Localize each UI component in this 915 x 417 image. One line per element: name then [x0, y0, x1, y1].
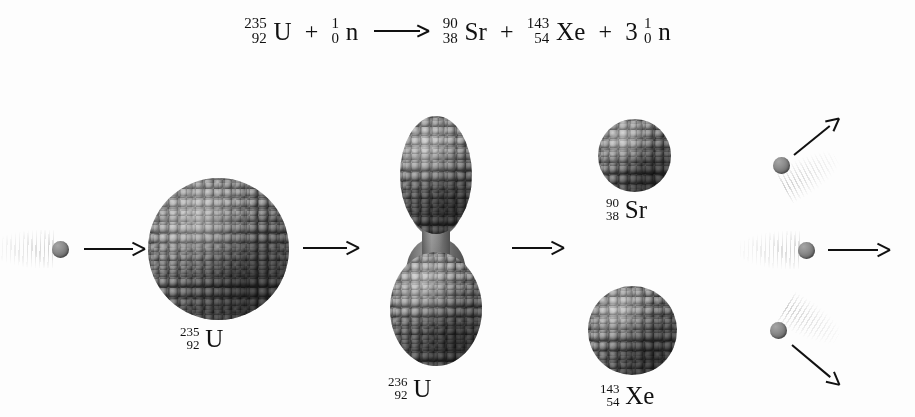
- incoming-neutron-group: [0, 230, 150, 290]
- mass-number: 90: [606, 196, 619, 209]
- atomic-number: 92: [180, 338, 200, 351]
- mass-number: 235: [180, 325, 200, 338]
- label-xenon-143: 143 54 Xe: [600, 382, 654, 409]
- nucleus-xenon-143: [588, 286, 677, 375]
- arrow-head: [345, 241, 358, 255]
- element-symbol: Sr: [465, 19, 487, 44]
- neutron-particle: [798, 242, 815, 259]
- element-symbol: U: [413, 376, 431, 401]
- mass-number: 1: [644, 16, 652, 31]
- atomic-number: 0: [332, 31, 340, 46]
- lower-lobe: [390, 252, 482, 366]
- element-symbol: n: [346, 19, 359, 44]
- sphere-shading: [148, 178, 289, 320]
- equation-product-xenon-143: 143 54 Xe: [527, 16, 585, 47]
- reaction-equation: 235 92 U + 1 0 n 90 38 Sr +: [0, 16, 915, 47]
- atomic-number: 0: [644, 31, 652, 46]
- equation-product-strontium-90: 90 38 Sr: [443, 16, 487, 47]
- isotope-numbers: 90 38: [606, 196, 619, 223]
- plus-sign-3: +: [599, 19, 613, 43]
- sphere-shading: [400, 116, 472, 234]
- mass-number: 235: [244, 16, 267, 31]
- isotope-numbers: 1 0: [332, 16, 340, 47]
- neutron-motion-trail: [740, 231, 802, 269]
- isotope-numbers: 235 92: [244, 16, 267, 47]
- arrow-shaft: [828, 249, 878, 251]
- label-strontium-90: 90 38 Sr: [606, 196, 647, 223]
- mass-number: 1: [332, 16, 340, 31]
- element-symbol: n: [658, 19, 671, 44]
- element-symbol: U: [205, 326, 223, 351]
- stoichiometric-coefficient: 3: [625, 19, 638, 44]
- nucleus-uranium-235: [148, 178, 289, 320]
- fission-diagram: 235 92 U + 1 0 n 90 38 Sr +: [0, 0, 915, 417]
- label-uranium-236: 236 92 U: [388, 375, 431, 402]
- arrow-shaft: [84, 248, 133, 250]
- mass-number: 143: [600, 382, 620, 395]
- arrow-head: [824, 114, 843, 133]
- arrow-head: [876, 243, 889, 257]
- emitted-neutron-arrow-down-icon: [788, 340, 844, 391]
- incoming-neutron-arrow-icon: [84, 242, 144, 256]
- plus-sign-1: +: [305, 19, 319, 43]
- isotope-numbers: 235 92: [180, 325, 200, 352]
- element-symbol: Sr: [625, 197, 647, 222]
- arrow-head: [416, 25, 428, 37]
- sphere-shading: [588, 286, 677, 375]
- transition-arrow-1-icon: [303, 241, 359, 255]
- neutron-particle: [770, 322, 787, 339]
- arrow-shaft: [374, 30, 420, 32]
- mass-number: 90: [443, 16, 458, 31]
- element-symbol: U: [273, 19, 291, 44]
- plus-sign-2: +: [500, 19, 514, 43]
- atomic-number: 54: [527, 31, 550, 46]
- isotope-notation: 235 92 U: [180, 325, 223, 352]
- sphere-shading: [390, 252, 482, 366]
- arrow-head: [550, 241, 563, 255]
- isotope-numbers: 143 54: [600, 382, 620, 409]
- nucleus-strontium-90: [598, 119, 671, 192]
- equation-reactant-uranium-235: 235 92 U: [244, 16, 291, 47]
- atomic-number: 38: [606, 209, 619, 222]
- emitted-neutron-group-right: [790, 232, 915, 292]
- transition-arrow-2-icon: [512, 241, 564, 255]
- neutron-motion-trail: [0, 230, 56, 268]
- emitted-neutron-group-down: [718, 290, 915, 410]
- isotope-numbers: 90 38: [443, 16, 458, 47]
- label-uranium-235: 235 92 U: [180, 325, 223, 352]
- neutron-particle: [773, 157, 790, 174]
- atomic-number: 92: [388, 388, 408, 401]
- nucleus-uranium-236-compound: [388, 116, 484, 366]
- mass-number: 236: [388, 375, 408, 388]
- atomic-number: 38: [443, 31, 458, 46]
- isotope-notation: 236 92 U: [388, 375, 431, 402]
- equation-reactant-neutron: 1 0 n: [332, 16, 359, 47]
- equation-product-neutrons: 3 1 0 n: [625, 16, 671, 47]
- atomic-number: 54: [600, 395, 620, 408]
- element-symbol: Xe: [625, 383, 654, 408]
- neutron-particle: [52, 241, 69, 258]
- arrow-shaft: [512, 247, 552, 249]
- isotope-notation: 143 54 Xe: [600, 382, 654, 409]
- emitted-neutron-group-up: [718, 112, 915, 212]
- emitted-neutron-arrow-right-icon: [828, 243, 890, 257]
- isotope-numbers: 236 92: [388, 375, 408, 402]
- neutron-motion-trail: [775, 290, 847, 352]
- sphere-shading: [598, 119, 671, 192]
- mass-number: 143: [527, 16, 550, 31]
- element-symbol: Xe: [556, 19, 585, 44]
- arrow-shaft: [303, 247, 347, 249]
- isotope-notation: 90 38 Sr: [606, 196, 647, 223]
- atomic-number: 92: [244, 31, 267, 46]
- isotope-numbers: 143 54: [527, 16, 550, 47]
- yields-arrow-icon: [374, 25, 428, 37]
- upper-lobe: [400, 116, 472, 234]
- arrow-head: [131, 242, 144, 256]
- isotope-numbers: 1 0: [644, 16, 652, 47]
